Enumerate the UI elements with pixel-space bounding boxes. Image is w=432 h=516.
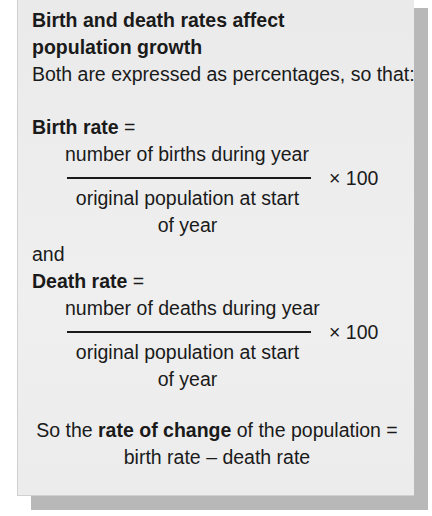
birth-rate-numerator: number of births during year <box>65 141 309 168</box>
birth-rate-formula: number of births during year × 100 origi… <box>32 141 412 271</box>
death-rate-denominator-line-2: of year <box>65 366 310 393</box>
birth-rate-denominator-line-2: of year <box>65 212 310 239</box>
heading-line-2: population growth <box>32 34 412 61</box>
death-rate-numerator: number of deaths during year <box>65 295 320 322</box>
death-rate-denominator: original population at start of year <box>65 339 310 393</box>
rate-of-change-summary: So the rate of change of the population … <box>32 417 402 471</box>
birth-rate-label: Birth rate <box>32 116 119 138</box>
spacer <box>32 88 412 110</box>
death-rate-label-row: Death rate = <box>32 268 412 295</box>
death-rate-equals: = <box>127 270 144 292</box>
birth-rate-equals: = <box>119 116 136 138</box>
summary-line-2: birth rate – death rate <box>32 444 402 471</box>
birth-rate-denominator-line-1: original population at start <box>65 185 310 212</box>
birth-rate-denominator: original population at start of year <box>65 185 310 239</box>
death-rate-formula: number of deaths during year × 100 origi… <box>32 295 412 425</box>
death-rate-label: Death rate <box>32 270 127 292</box>
info-box-content: Birth and death rates affect population … <box>32 0 412 471</box>
death-rate-multiplier: × 100 <box>329 319 378 346</box>
birth-rate-multiplier: × 100 <box>329 165 378 192</box>
heading-line-1: Birth and death rates affect <box>32 7 412 34</box>
intro-text: Both are expressed as percentages, so th… <box>32 61 412 88</box>
birth-rate-fraction-bar <box>67 177 311 179</box>
death-rate-fraction-bar <box>67 331 311 333</box>
death-rate-denominator-line-1: original population at start <box>65 339 310 366</box>
birth-rate-label-row: Birth rate = <box>32 114 412 141</box>
